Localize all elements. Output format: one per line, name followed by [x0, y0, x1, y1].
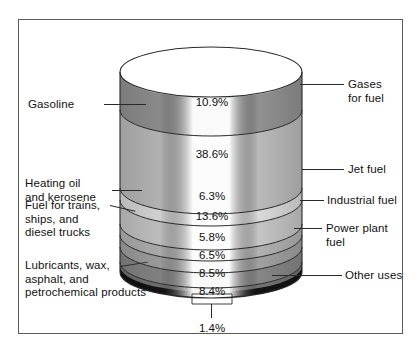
leader-line-heating-oil	[112, 190, 142, 191]
leader-line-gasoline	[104, 104, 146, 105]
percent-label-6-5: 6.5%	[182, 249, 242, 261]
callout-jet-fuel: Jet fuel	[348, 163, 386, 177]
percent-label-8-5: 8.5%	[182, 267, 242, 279]
percent-label-6-3: 6.3%	[182, 190, 242, 202]
leader-line-industrial	[300, 200, 324, 201]
callout-gasoline: Gasoline	[28, 98, 74, 112]
callout-trains: Fuel for trains, ships, and diesel truck…	[25, 199, 100, 240]
percent-label-5-8: 5.8%	[182, 231, 242, 243]
figure-container: 10.9% 38.6% 6.3% 13.6% 5.8% 6.5% 8.5% 8.…	[0, 0, 419, 352]
percent-label-13-6: 13.6%	[182, 210, 242, 222]
leader-line-other-uses	[272, 275, 342, 276]
callout-industrial: Industrial fuel	[327, 194, 397, 208]
callout-other-uses: Other uses	[345, 269, 402, 283]
leader-line-bottom-pct	[211, 304, 212, 318]
callout-lubricants: Lubricants, wax, asphalt, and petrochemi…	[25, 259, 146, 300]
leader-line-jet-fuel	[302, 169, 344, 170]
percent-label-1-4: 1.4%	[182, 322, 242, 334]
percent-label-38-6: 38.6%	[182, 148, 242, 160]
percent-label-10-9: 10.9%	[182, 96, 242, 108]
callout-power-plant: Power plant fuel	[326, 222, 388, 249]
leader-line-power-plant	[294, 228, 322, 229]
callout-gases: Gases for fuel	[348, 78, 384, 105]
leader-line-gases	[300, 84, 344, 85]
percent-label-8-4: 8.4%	[182, 285, 242, 297]
